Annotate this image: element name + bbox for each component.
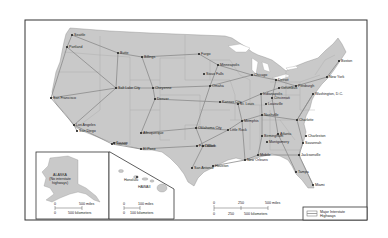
city-marker: Pittsburgh xyxy=(295,84,314,88)
city-marker: Louisville xyxy=(265,102,283,106)
city-label: San Diego xyxy=(79,129,96,133)
city-label: Fort Worth xyxy=(199,144,216,148)
city-dot-icon xyxy=(203,73,205,75)
city-marker: San Francisco xyxy=(50,96,76,100)
city-dot-icon xyxy=(260,93,262,95)
city-dot-icon xyxy=(298,154,300,156)
city-dot-icon xyxy=(295,171,297,173)
city-label: New Orleans xyxy=(247,158,268,162)
city-label: New York xyxy=(329,75,344,79)
city-marker: Salt Lake City xyxy=(115,86,140,90)
city-label: Montgomery xyxy=(269,140,289,144)
svg-text:250: 250 xyxy=(238,201,244,205)
city-marker: Savannah xyxy=(302,141,321,145)
city-label: Washington, D.C. xyxy=(315,92,343,96)
city-dot-icon xyxy=(296,119,298,121)
city-label: Houston xyxy=(215,164,228,168)
city-marker: Montgomery xyxy=(266,140,289,144)
city-dot-icon xyxy=(305,135,307,137)
city-label: Seattle xyxy=(74,33,85,37)
svg-text:0: 0 xyxy=(213,212,215,216)
city-marker: Minneapolis xyxy=(217,63,239,67)
city-marker: Portland xyxy=(66,45,82,49)
city-dot-icon xyxy=(111,143,113,145)
city-marker: Nashville xyxy=(261,113,278,117)
city-dot-icon xyxy=(266,141,268,143)
city-marker: Memphis xyxy=(241,119,259,123)
city-dot-icon xyxy=(251,74,253,76)
city-marker: Seattle xyxy=(71,33,85,37)
svg-text:500 kilometers: 500 kilometers xyxy=(244,212,268,216)
us-interstate-map: ALASKA (No interstate highways) 0 500 mi… xyxy=(0,0,388,238)
city-label: Portland xyxy=(69,45,82,49)
city-dot-icon xyxy=(66,46,68,48)
city-label: Cincinnati xyxy=(274,96,290,100)
city-label: Atlanta xyxy=(280,132,291,136)
city-dot-icon xyxy=(191,167,193,169)
city-label: San Francisco xyxy=(53,96,76,100)
city-dot-icon xyxy=(278,87,280,89)
city-label: Omaha xyxy=(212,84,224,88)
city-label: Pittsburgh xyxy=(298,84,314,88)
city-marker: New Orleans xyxy=(244,158,268,162)
svg-text:0: 0 xyxy=(54,211,56,215)
city-dot-icon xyxy=(227,129,229,131)
svg-text:Highways: Highways xyxy=(320,214,336,218)
city-marker: Houston xyxy=(212,164,228,168)
city-dot-icon xyxy=(152,87,154,89)
city-dot-icon xyxy=(261,135,263,137)
city-marker: St. Louis xyxy=(237,102,254,106)
city-dot-icon xyxy=(261,114,263,116)
city-label: Tampa xyxy=(298,170,309,174)
city-label: Salt Lake City xyxy=(118,86,140,90)
city-dot-icon xyxy=(244,159,246,161)
city-dot-icon xyxy=(115,87,117,89)
alaska-inset: ALASKA (No interstate highways) 0 500 mi… xyxy=(36,152,109,219)
city-dot-icon xyxy=(271,97,273,99)
city-marker: Los Angeles xyxy=(73,123,96,127)
city-label: Columbus xyxy=(281,86,297,90)
city-marker: Omaha xyxy=(209,84,224,88)
city-marker: Detroit xyxy=(275,78,288,82)
city-label: Charlotte xyxy=(299,118,314,122)
city-marker: Cincinnati xyxy=(271,96,290,100)
legend: Major Interstate Highways xyxy=(303,207,367,220)
svg-text:500 miles: 500 miles xyxy=(265,201,281,205)
city-marker: Charleston xyxy=(305,134,325,138)
city-label: Mobile xyxy=(260,153,271,157)
city-marker: Mobile xyxy=(257,153,270,157)
city-label: Miami xyxy=(315,183,325,187)
city-marker: Fort Worth xyxy=(196,144,216,148)
city-marker: San Diego xyxy=(76,129,96,133)
city-marker: San Antonio xyxy=(191,166,213,170)
city-dot-icon xyxy=(195,127,197,129)
svg-text:0: 0 xyxy=(54,202,56,206)
city-label: Jacksonville xyxy=(301,153,320,157)
city-marker: Chicago xyxy=(251,73,267,77)
city-marker: Washington, D.C. xyxy=(312,92,343,96)
city-dot-icon xyxy=(141,56,143,58)
city-dot-icon xyxy=(302,142,304,144)
city-dot-icon xyxy=(275,79,277,81)
city-marker: Tampa xyxy=(295,170,309,174)
city-label: Louisville xyxy=(268,102,283,106)
city-label: Savannah xyxy=(305,141,321,145)
city-label: Boston xyxy=(341,59,352,63)
city-dot-icon xyxy=(140,132,142,134)
city-marker: Oklahoma City xyxy=(195,126,222,130)
city-label: Nashville xyxy=(264,113,279,117)
city-dot-icon xyxy=(198,53,200,55)
city-label: Tucson xyxy=(116,141,128,145)
city-marker: New York xyxy=(326,75,344,79)
svg-text:100 miles: 100 miles xyxy=(138,202,154,206)
city-marker: Billings xyxy=(141,55,155,59)
city-dot-icon xyxy=(209,85,211,87)
city-dot-icon xyxy=(295,85,297,87)
svg-text:0: 0 xyxy=(213,201,215,205)
city-dot-icon xyxy=(312,93,314,95)
city-marker: Columbus xyxy=(278,86,297,90)
city-dot-icon xyxy=(50,97,52,99)
city-label: Billings xyxy=(144,55,156,59)
city-dot-icon xyxy=(117,52,119,54)
svg-text:250: 250 xyxy=(228,212,234,216)
